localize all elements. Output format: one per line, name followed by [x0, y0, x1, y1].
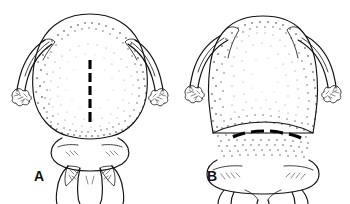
figure-background: [0, 0, 350, 204]
panel-label-b: B: [207, 168, 217, 184]
figure-illustration: A: [0, 0, 350, 204]
panel-label-a: A: [34, 168, 44, 184]
